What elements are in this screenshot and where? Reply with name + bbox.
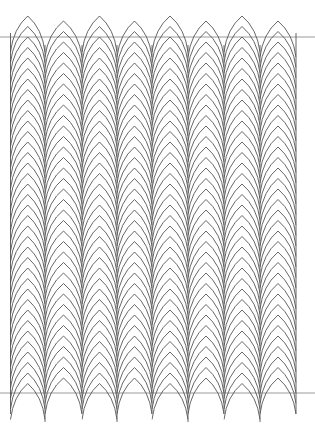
arch-column	[117, 21, 152, 414]
arch-stroke	[260, 21, 296, 57]
arch-column	[82, 16, 117, 420]
arch-column	[45, 21, 82, 414]
arch-stroke	[45, 21, 82, 57]
arch-column	[152, 16, 188, 420]
arch-stroke	[152, 16, 188, 52]
arch-column	[260, 21, 296, 414]
arch-herringbone-pattern	[0, 0, 315, 429]
column-divider-lines	[11, 33, 297, 422]
arch-stroke	[11, 16, 46, 52]
arch-column	[11, 16, 46, 420]
arch-stroke	[224, 16, 260, 52]
arch-column	[188, 21, 224, 414]
arch-stroke	[188, 21, 224, 57]
arch-stroke	[117, 21, 152, 57]
arch-stroke	[82, 16, 117, 52]
arch-column	[224, 16, 260, 420]
stacked-arches	[11, 16, 297, 420]
